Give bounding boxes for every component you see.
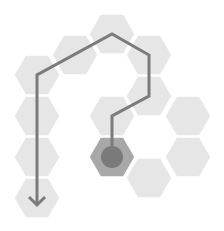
hex-cell-e1[interactable] xyxy=(165,96,211,136)
hex-puzzle-board xyxy=(0,0,224,231)
hex-cell-d3[interactable] xyxy=(126,158,172,198)
hex-cell-e2[interactable] xyxy=(165,137,211,177)
start-dot-icon[interactable] xyxy=(101,146,123,168)
